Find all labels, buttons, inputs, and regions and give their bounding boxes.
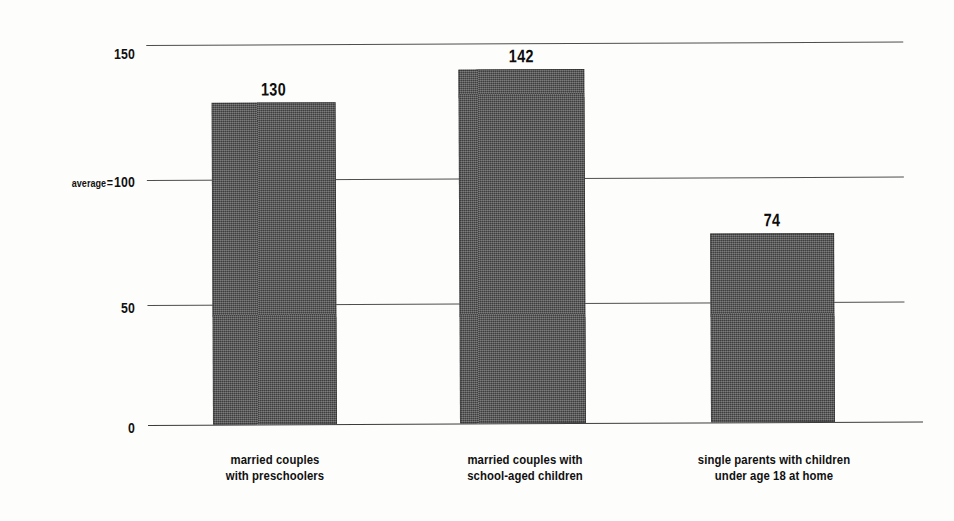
category-label-1-line1: married couples bbox=[231, 452, 320, 467]
bar-single-parents-with-children bbox=[710, 233, 835, 423]
category-label-3-line2: under age 18 at home bbox=[677, 468, 872, 484]
category-label-2: married couples with school-aged childre… bbox=[437, 452, 613, 484]
category-label-1: married couples with preschoolers bbox=[191, 452, 359, 484]
y-tick-label-50: 50 bbox=[61, 299, 135, 316]
y-tick-average-word: average bbox=[72, 177, 106, 189]
category-label-3-line1: single parents with children bbox=[698, 452, 850, 467]
y-tick-label-average-100: average=100 bbox=[41, 173, 135, 190]
y-tick-label-0: 0 bbox=[61, 419, 135, 436]
bar-value-label-1: 130 bbox=[224, 79, 323, 100]
y-tick-label-150: 150 bbox=[57, 45, 135, 62]
category-label-1-line2: with preschoolers bbox=[191, 468, 359, 484]
y-tick-average-value: 100 bbox=[114, 173, 135, 190]
bar-value-label-2: 142 bbox=[471, 46, 572, 67]
plot-area: 130 142 74 bbox=[0, 0, 954, 521]
category-label-2-line2: school-aged children bbox=[437, 468, 613, 484]
bar-chart: 130 142 74 150 average=100 50 0 married … bbox=[0, 0, 954, 521]
bar-value-label-3: 74 bbox=[722, 210, 821, 231]
category-label-2-line1: married couples with bbox=[467, 452, 582, 467]
bar-married-couples-with-school-aged-children bbox=[458, 69, 586, 424]
category-label-3: single parents with children under age 1… bbox=[677, 452, 872, 484]
bar-married-couples-with-preschoolers bbox=[212, 102, 337, 425]
